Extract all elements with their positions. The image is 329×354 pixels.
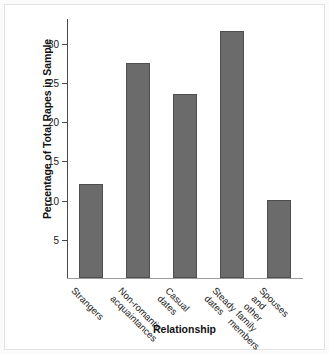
y-tick-mark	[62, 44, 67, 45]
chart-page: Percentage of Total Rapes in Sample 5 10…	[0, 0, 329, 354]
y-tick-label: 20	[48, 117, 59, 128]
chart-frame: Percentage of Total Rapes in Sample 5 10…	[4, 4, 325, 350]
y-tick-label: 15	[48, 156, 59, 167]
y-tick-label: 5	[53, 234, 59, 245]
y-axis-line	[67, 19, 68, 278]
y-tick-label: 30	[48, 38, 59, 49]
x-axis-line	[67, 278, 303, 279]
x-tick-label-strangers: Strangers	[69, 285, 106, 322]
x-tick-label-casual-dates: Casual dates	[155, 285, 191, 321]
y-tick-mark	[62, 161, 67, 162]
x-tick-label-spouses-and-other-family-members: Spouses and other family members	[226, 285, 293, 352]
y-tick-mark	[62, 240, 67, 241]
plot-area: 5 10 15 20 25 30	[67, 19, 302, 278]
y-tick-mark	[62, 83, 67, 84]
y-tick-mark	[62, 122, 67, 123]
x-axis-title: Relationship	[67, 323, 302, 335]
bar-steady-dates	[220, 31, 244, 278]
x-tick-label-non-romantic-acquaintances: Non-romantic acquaintances	[108, 285, 167, 344]
bar-spouses-and-other-family-members	[267, 200, 291, 279]
y-tick-label: 25	[48, 78, 59, 89]
bar-strangers	[79, 184, 103, 278]
bar-non-romantic-acquaintances	[126, 63, 150, 278]
y-tick-label: 10	[48, 195, 59, 206]
bar-casual-dates	[173, 94, 197, 278]
y-tick-mark	[62, 201, 67, 202]
